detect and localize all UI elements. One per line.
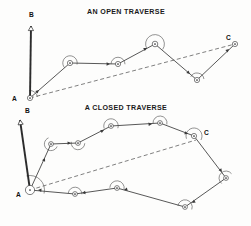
traverse-leg-3: [78, 126, 111, 143]
panel-title-closed-traverse: A CLOSED TRAVERSE: [85, 104, 167, 112]
station-center-station-c: [193, 135, 195, 137]
direction-arrow-5: [225, 48, 230, 53]
station-center-station-2: [69, 62, 71, 64]
backsight-arrow-marker: [17, 120, 23, 125]
panel-open-traverse: AN OPEN TRAVERSEBAC: [12, 8, 238, 102]
traverse-leg-6: [194, 136, 226, 178]
station-center-station-5: [159, 122, 161, 124]
backsight-arrow-marker: [28, 26, 33, 31]
station-center-station-4: [154, 43, 156, 45]
station-center-station-4: [110, 125, 112, 127]
direction-arrow-2: [68, 141, 72, 145]
direction-arrow-4: [148, 122, 152, 126]
station-center-station-c: [234, 43, 236, 45]
traverse-leg-1: [30, 144, 51, 190]
station-center-station-3: [77, 142, 79, 144]
traverse-leg-8: [117, 188, 185, 207]
panel-title-open-traverse: AN OPEN TRAVERSE: [87, 8, 165, 16]
station-center-station-7: [225, 177, 227, 179]
backsight-line-to-b: [30, 26, 31, 98]
label-b: B: [25, 107, 30, 114]
station-center-station-3: [117, 63, 119, 65]
closing-line: [30, 140, 196, 190]
traverse-diagram-canvas: AN OPEN TRAVERSEBACA CLOSED TRAVERSEBAC: [0, 0, 251, 226]
station-center-station-a: [29, 189, 31, 191]
traverse-leg-5: [197, 44, 235, 80]
backsight-line-to-b: [20, 120, 30, 190]
traverse-leg-2: [51, 143, 78, 144]
station-center-station-5: [196, 79, 198, 81]
label-a: A: [16, 191, 21, 198]
label-c: C: [226, 34, 231, 41]
traverse-figure: AN OPEN TRAVERSEBACA CLOSED TRAVERSEBAC: [0, 0, 251, 226]
direction-arrow-10: [38, 188, 42, 192]
label-c: C: [204, 129, 209, 136]
panel-closed-traverse: A CLOSED TRAVERSEBAC: [16, 104, 232, 209]
station-center-station-10: [74, 193, 76, 195]
label-a: A: [12, 95, 17, 102]
station-center-station-8: [184, 206, 186, 208]
traverse-leg-7: [185, 178, 226, 207]
station-center-station-a: [29, 97, 31, 99]
station-center-station-9: [116, 187, 118, 189]
traverse-leg-4: [155, 44, 197, 80]
station-center-station-2: [50, 143, 52, 145]
direction-arrow-2: [107, 62, 110, 65]
label-b: B: [29, 11, 34, 18]
traverse-leg-3: [118, 44, 155, 64]
